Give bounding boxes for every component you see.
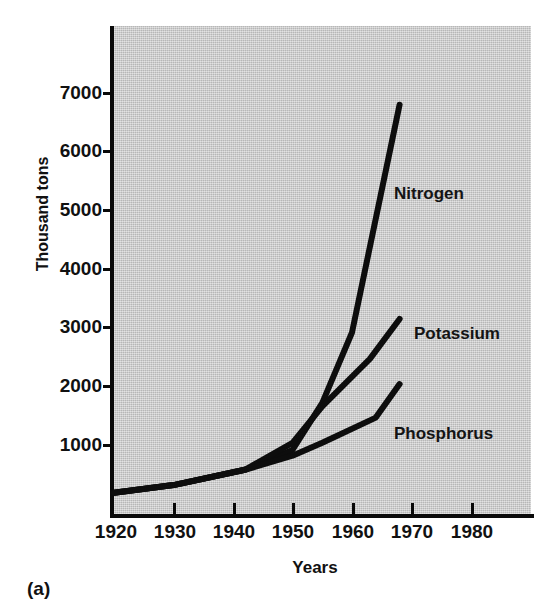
figure-panel-a: 7000 6000 5000 4000 3000 2000 1000 1920 …: [0, 0, 555, 608]
series-label-phosphorus: Phosphorus: [394, 424, 493, 444]
panel-caption: (a): [27, 578, 50, 600]
series-label-potassium: Potassium: [414, 324, 500, 344]
data-curves: [0, 0, 555, 608]
series-label-nitrogen: Nitrogen: [394, 184, 464, 204]
series-line-nitrogen: [114, 105, 400, 493]
series-line-phosphorus: [114, 384, 400, 493]
